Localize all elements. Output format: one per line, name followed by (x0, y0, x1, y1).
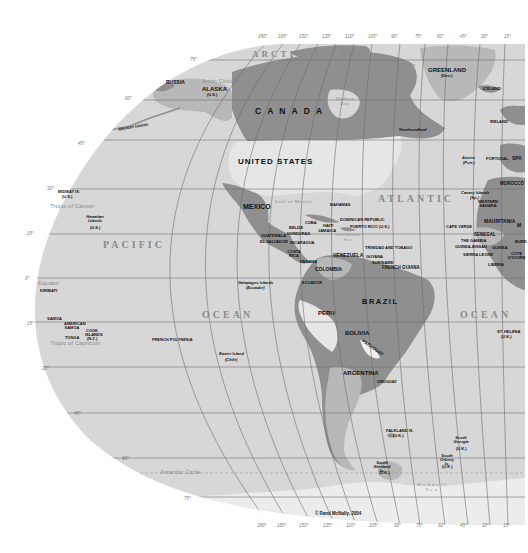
tick-lat-15s: 15° (27, 322, 34, 327)
label-atlantic-ocean: OCEAN (460, 310, 511, 320)
label-uruguay: URUGUAY (377, 380, 397, 384)
tick-bottom-8: 60° (438, 524, 445, 529)
label-samoa: SAMOA (47, 317, 62, 321)
label-mali: M (517, 223, 521, 228)
label-pacific: PACIFIC (103, 240, 165, 250)
label-azores-sub: (Port.) (463, 161, 475, 165)
tick-bottom-9: 45° (460, 524, 467, 529)
label-caribbean-sea: Caribbean Sea (333, 232, 363, 242)
label-senegal: SENEGAL (474, 233, 496, 238)
label-easter-island: Easter Island (219, 352, 244, 356)
tick-lat-60s: 60° (122, 457, 129, 462)
label-midway-sub: (U.S.) (62, 195, 72, 199)
label-el-salvador: EL SALVADOR (260, 240, 288, 244)
label-newfoundland: Newfoundland (399, 128, 427, 132)
label-guyana: GUYANA (366, 255, 383, 259)
tick-lat-75s: 75° (184, 497, 191, 502)
tick-bottom-6: 90° (394, 524, 401, 529)
tick-bottom-4: 120° (346, 524, 355, 529)
label-tropic-of-cancer: Tropic of Cancer (50, 203, 94, 209)
label-honduras: HONDURAS (287, 232, 310, 236)
label-cuba: CUBA (305, 221, 317, 225)
tick-top-0: 180° (258, 35, 267, 40)
label-brazil: BRAZIL (362, 298, 399, 306)
tick-top-6: 90° (391, 35, 398, 40)
label-atlantic: ATLANTIC (378, 194, 454, 204)
tick-bottom-0: 180° (257, 524, 266, 529)
label-guinea: GUINEA (492, 246, 508, 250)
label-mexico: MEXICO (243, 203, 271, 210)
tick-lat-60n: 60° (125, 97, 132, 102)
label-cape-verde: CAPE VERDE (446, 225, 472, 229)
tick-lat-15n: 15° (27, 232, 34, 237)
label-spain: SPA (512, 156, 522, 161)
label-burkina: BURK. (515, 240, 528, 244)
tick-lat-30s: 30° (42, 367, 49, 372)
label-jamaica: JAMAICA (318, 229, 336, 233)
tick-top-7: 75° (415, 35, 422, 40)
copyright-notice: © Rand McNally, 2004 (315, 512, 361, 517)
label-morocco: MOROCCO (500, 182, 524, 187)
tick-bottom-1: 165° (277, 524, 286, 529)
label-greenland-sub: (Den.) (441, 74, 452, 78)
tick-bottom-10: 30° (482, 524, 489, 529)
tick-top-1: 165° (278, 35, 287, 40)
label-baffin-bay: Baffin Bay (398, 62, 418, 72)
label-south-orkney-sub: (U.K.) (442, 465, 453, 469)
label-arctic-circle: Arctic Circle (202, 78, 234, 84)
label-canada: C A N A D A (255, 107, 324, 116)
label-ireland: IRELAND (490, 120, 508, 124)
label-french-guiana: FRENCH GUIANA (382, 266, 420, 271)
tick-top-11: 15° (504, 35, 511, 40)
tick-top-10: 30° (481, 35, 488, 40)
label-western-sahara: WESTERN SAHARA (476, 200, 500, 208)
label-portugal: PORTUGAL (486, 157, 508, 161)
label-galapagos-sub: (Ecuador) (246, 286, 265, 290)
label-tonga: TONGA (65, 336, 79, 340)
label-arctic-ocean: ARCTIC OCEAN (252, 50, 358, 59)
label-pacific-ocean: OCEAN (202, 310, 253, 320)
tick-lat-75n: 75° (190, 58, 197, 63)
tick-bottom-7: 75° (416, 524, 423, 529)
label-united-states: UNITED STATES (238, 158, 313, 166)
label-hawaiian-sub: (U.S.) (90, 226, 100, 230)
label-south-georgia-sub: (U.K.) (456, 447, 467, 451)
label-hudson-bay: Hudson Bay (333, 96, 357, 106)
label-mauritania: MAURITANIA (484, 219, 515, 224)
tick-lat-45s: 45° (74, 412, 81, 417)
label-cook-sub: (N.Z.) (87, 337, 97, 341)
tick-top-2: 150° (299, 35, 308, 40)
label-belize: BELIZE (289, 226, 303, 230)
label-hawaiian-islands: Hawaiian Islands (86, 215, 104, 223)
label-nicaragua: NICARAGUA (290, 241, 314, 245)
label-costa-rica: COSTA RICA (287, 250, 301, 258)
label-trinidad-and-tobago: TRINIDAD AND TOBAGO (365, 246, 412, 250)
tick-lat-0: 0° (25, 277, 29, 282)
tick-top-8: 60° (437, 35, 444, 40)
label-bolivia: BOLIVIA (345, 330, 369, 336)
label-guatemala: GUATEMALA (261, 234, 286, 238)
label-colombia: COLOMBIA (315, 267, 342, 272)
label-antarctic-circle: Antarctic Circle (160, 469, 200, 475)
label-south-shetland-sub: (U.K.) (379, 471, 390, 475)
tick-lat-30n: 30° (47, 187, 54, 192)
tick-top-9: 45° (460, 35, 467, 40)
label-peru: PERU (318, 310, 335, 316)
label-panama: PANAMA (300, 260, 317, 264)
tick-bottom-11: 15° (503, 524, 510, 529)
land-united-states (228, 136, 401, 196)
tick-lat-45n: 45° (78, 142, 85, 147)
label-ecuador: ECUADOR (302, 281, 322, 285)
label-falkland-sub: (U.K.) (393, 434, 404, 438)
label-easter-sub: (Chile) (225, 358, 237, 362)
tick-top-4: 120° (345, 35, 354, 40)
label-kiribati: KIRIBATI (40, 289, 57, 293)
tick-bottom-2: 150° (299, 524, 308, 529)
label-dominican-republic: DOMINICAN REPUBLIC (340, 218, 385, 222)
label-south-georgia: South Georgia (452, 436, 470, 444)
label-french-polynesia: FRENCH POLYNESIA (152, 338, 193, 342)
label-american-samoa: AMERICAN SAMOA (64, 322, 80, 330)
label-argentina: ARGENTINA (343, 370, 379, 376)
label-alaska-sub: (U.S.) (207, 93, 217, 97)
